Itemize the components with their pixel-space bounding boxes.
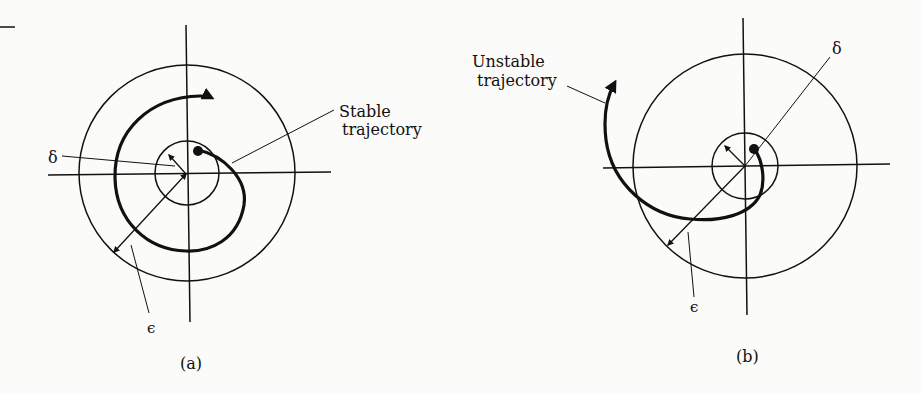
initial-state-dot [749,144,759,154]
epsilon-label: ϵ [147,319,155,337]
trajectory-leader-line [232,110,334,163]
stability-diagram: δ ϵ Stable trajectory (a) δ ϵ Unstable t… [0,0,921,394]
delta-label: δ [48,148,58,167]
trajectory-label-line2: trajectory [342,120,422,139]
trajectory-label-line2: trajectory [477,71,557,90]
epsilon-leader-line [131,245,149,313]
delta-radius-arrow [169,155,186,174]
panel-caption: (b) [736,347,759,366]
trajectory-label-line1: Unstable [472,52,545,71]
horizontal-axis [48,172,331,175]
epsilon-radius-arrow [668,166,745,245]
initial-state-dot [193,146,203,156]
trajectory-label-line1: Stable [339,102,391,121]
panel-caption: (a) [180,354,202,373]
panel-b: δ ϵ Unstable trajectory (b) [472,18,890,366]
epsilon-label: ϵ [690,298,698,316]
delta-label: δ [832,39,842,58]
trajectory-leader-line [567,86,605,103]
unstable-trajectory-curve [605,84,763,220]
delta-radius-arrow [725,146,745,166]
panel-a: δ ϵ Stable trajectory (a) [48,25,422,373]
